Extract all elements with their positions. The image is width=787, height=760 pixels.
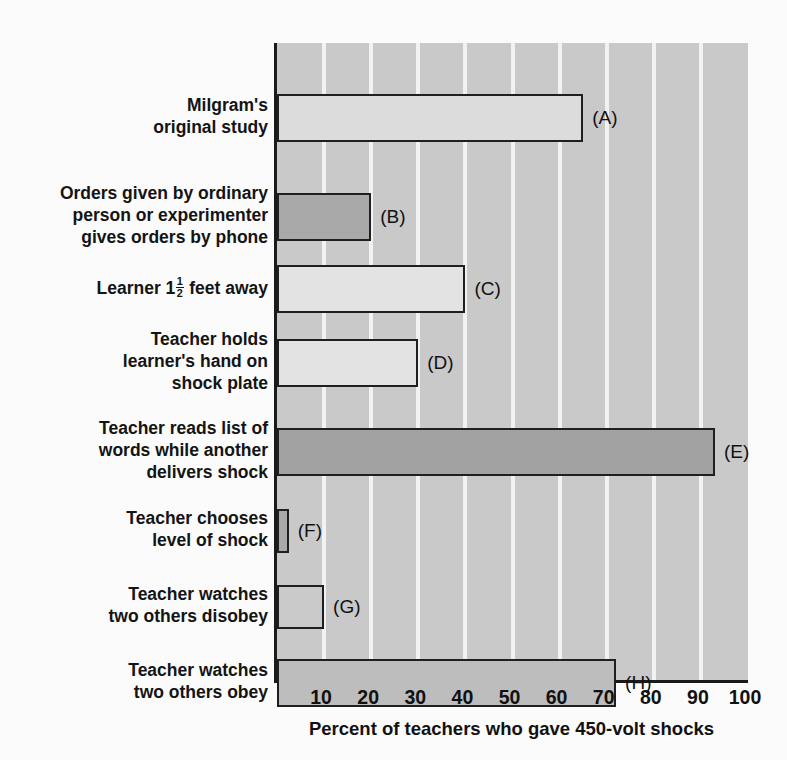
category-label-line: Teacher reads list of xyxy=(0,417,268,439)
x-tick-label-50: 50 xyxy=(499,686,521,709)
bar-row: (G) xyxy=(277,585,748,629)
category-label: Teacher holdslearner's hand onshock plat… xyxy=(0,328,268,394)
category-label-column: Milgram'soriginal studyOrders given by o… xyxy=(0,43,268,680)
x-tick-label-30: 30 xyxy=(404,686,426,709)
bar-value-label: (C) xyxy=(474,278,500,300)
fraction-one-half: 12 xyxy=(176,276,184,299)
category-label-line: two others disobey xyxy=(0,605,268,627)
category-label-line: Learner 112 feet away xyxy=(0,276,268,299)
bar-b xyxy=(277,193,371,241)
category-label-line: Teacher holds xyxy=(0,328,268,350)
x-axis-title: Percent of teachers who gave 450-volt sh… xyxy=(274,718,749,740)
bar-row: (A) xyxy=(277,94,748,142)
category-label-line: delivers shock xyxy=(0,461,268,483)
bar-f xyxy=(277,509,289,553)
category-label-line: person or experimenter xyxy=(0,204,268,226)
bar-row: (F) xyxy=(277,509,748,553)
x-tick-label-60: 60 xyxy=(546,686,568,709)
x-axis-tick-labels: 102030405060708090100 xyxy=(0,686,787,712)
bars-container: (A)(B)(C)(D)(E)(F)(G)(H) xyxy=(277,43,748,680)
bar-row: (B) xyxy=(277,193,748,241)
category-label-line: level of shock xyxy=(0,529,268,551)
bar-value-label: (A) xyxy=(592,107,617,129)
x-tick-label-80: 80 xyxy=(640,686,662,709)
category-label-line: original study xyxy=(0,116,268,138)
bar-d xyxy=(277,339,418,387)
x-tick-label-40: 40 xyxy=(452,686,474,709)
category-label: Teacher chooseslevel of shock xyxy=(0,507,268,551)
category-label: Orders given by ordinaryperson or experi… xyxy=(0,182,268,248)
category-label-line: words while another xyxy=(0,439,268,461)
plot-area: (A)(B)(C)(D)(E)(F)(G)(H) xyxy=(274,43,748,683)
category-label: Teacher reads list ofwords while another… xyxy=(0,417,268,483)
bar-e xyxy=(277,428,715,476)
bar-value-label: (F) xyxy=(298,520,322,542)
bar-c xyxy=(277,265,465,313)
category-label-line: Orders given by ordinary xyxy=(0,182,268,204)
bar-value-label: (B) xyxy=(380,206,405,228)
category-label-line: learner's hand on xyxy=(0,350,268,372)
x-tick-label-100: 100 xyxy=(729,686,762,709)
bar-value-label: (G) xyxy=(333,596,360,618)
bar-a xyxy=(277,94,583,142)
category-label-line: Teacher watches xyxy=(0,659,268,681)
category-label-line: Teacher chooses xyxy=(0,507,268,529)
category-label-line: gives orders by phone xyxy=(0,226,268,248)
x-tick-label-10: 10 xyxy=(310,686,332,709)
category-label: Milgram'soriginal study xyxy=(0,94,268,138)
bar-row: (C) xyxy=(277,265,748,313)
category-label: Learner 112 feet away xyxy=(0,276,268,299)
bar-chart: Milgram'soriginal studyOrders given by o… xyxy=(0,0,787,760)
bar-g xyxy=(277,585,324,629)
category-label-line: Teacher watches xyxy=(0,583,268,605)
bar-value-label: (E) xyxy=(724,441,749,463)
x-tick-label-20: 20 xyxy=(357,686,379,709)
bar-row: (D) xyxy=(277,339,748,387)
x-tick-label-70: 70 xyxy=(593,686,615,709)
bar-row: (E) xyxy=(277,428,748,476)
x-tick-label-90: 90 xyxy=(687,686,709,709)
category-label-line: Milgram's xyxy=(0,94,268,116)
category-label: Teacher watchestwo others disobey xyxy=(0,583,268,627)
bar-value-label: (D) xyxy=(427,352,453,374)
category-label-line: shock plate xyxy=(0,372,268,394)
